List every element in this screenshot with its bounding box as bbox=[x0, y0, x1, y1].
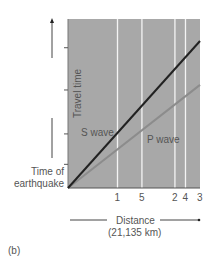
y-origin-label: Time of earthquake bbox=[14, 166, 64, 190]
s-wave-label: S wave bbox=[81, 127, 114, 138]
x-arrow-head-icon bbox=[198, 219, 201, 222]
p-wave-label: P wave bbox=[147, 134, 180, 145]
x-tick-label: 4 bbox=[182, 192, 188, 203]
y-arrow-head-icon bbox=[50, 18, 54, 23]
x-tick-label: 5 bbox=[139, 192, 145, 203]
x-axis-label: Distance bbox=[116, 215, 155, 226]
y-ticks bbox=[64, 48, 68, 165]
y-origin-label-text: Time of earthquake bbox=[14, 166, 64, 190]
plot-area bbox=[68, 19, 200, 188]
x-axis-sublabel: (21,135 km) bbox=[108, 227, 161, 238]
x-tick-label: 2 bbox=[172, 192, 178, 203]
y-axis-label: Travel time bbox=[72, 64, 83, 124]
x-tick-label: 1 bbox=[115, 192, 121, 203]
x-tick-label: 3 bbox=[197, 192, 203, 203]
panel-label: (b) bbox=[8, 245, 20, 256]
